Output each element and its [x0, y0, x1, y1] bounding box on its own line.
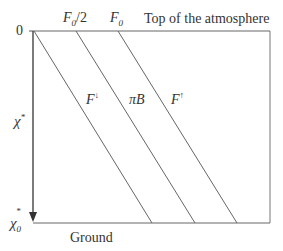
flux-up-label: F↑: [171, 91, 184, 107]
top-of-atmosphere-label: Top of the atmosphere: [144, 12, 269, 26]
chi-star-label: χ*: [14, 113, 25, 129]
zero-label: 0: [16, 24, 23, 38]
chi-zero-star-label: χ0*: [10, 215, 21, 234]
f0-half-label: F0/2: [63, 11, 87, 28]
diagram-canvas: [0, 0, 283, 251]
flux-down-label: F↓: [86, 91, 99, 107]
f0-label: F0: [110, 11, 123, 28]
pi-b-label: πB: [129, 93, 145, 107]
ground-label: Ground: [70, 231, 113, 245]
flux-down-line: [34, 31, 152, 223]
axis-arrow-icon: [29, 212, 37, 222]
